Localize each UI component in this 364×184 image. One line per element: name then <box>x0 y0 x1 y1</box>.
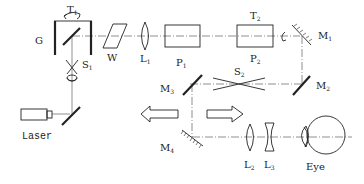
label-L2: L2 <box>244 159 255 171</box>
label-L1: L1 <box>140 53 150 65</box>
label-M1: M1 <box>318 30 332 42</box>
label-M3: M3 <box>160 83 174 95</box>
convex-lens-L2 <box>247 124 254 151</box>
label-W: W <box>107 52 118 63</box>
label-G: G <box>35 35 43 46</box>
label-P1: P1 <box>176 57 187 69</box>
label-S1: S1 <box>82 59 93 71</box>
label-laser: Laser <box>22 131 52 142</box>
mirror-M3 <box>183 75 202 95</box>
mirror-M2 <box>293 76 310 95</box>
label-T2: T2 <box>250 10 261 22</box>
label-eye: Eye <box>306 161 325 172</box>
label-L3: L3 <box>264 159 275 171</box>
rotating-housing-G <box>54 21 92 55</box>
laser-source <box>21 109 52 120</box>
mirror-M4 <box>181 130 203 148</box>
eye-icon <box>302 116 346 154</box>
mirror-laser <box>62 107 80 125</box>
label-M4: M4 <box>160 142 174 154</box>
arrow-right-icon <box>207 106 243 122</box>
label-M2: M2 <box>316 80 330 92</box>
arrow-left-icon <box>141 106 178 122</box>
optical-setup-diagram: T1 G S1 Laser W L1 P1 P2 T2 M1 <box>0 0 364 184</box>
rotation-arrow-icon <box>282 32 286 41</box>
label-P2: P2 <box>250 53 261 65</box>
label-S2: S2 <box>234 66 245 78</box>
label-T1: T1 <box>67 4 78 16</box>
